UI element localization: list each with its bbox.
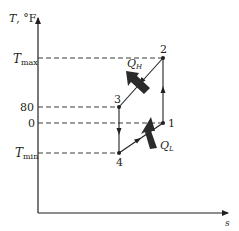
tick-0: 0: [28, 117, 35, 130]
tick-80: 80: [20, 101, 34, 114]
qh-label: QH: [127, 57, 143, 71]
state-label-3: 3: [114, 93, 121, 106]
t-s-diagram: T, °F s Tmax 80 0 Tmin QH QL: [0, 0, 239, 231]
state-label-2: 2: [160, 43, 167, 56]
tick-tmax: Tmax: [13, 52, 38, 67]
ql-heat-arrow: [141, 117, 157, 149]
state-label-1: 1: [168, 117, 175, 130]
state-point-1: [161, 121, 165, 125]
y-axis-unit: , °F: [16, 12, 36, 25]
x-axis-label: s: [225, 218, 230, 228]
ql-label: QL: [160, 139, 174, 153]
arrowhead-1-2: [161, 86, 166, 93]
tick-tmin: Tmin: [15, 146, 38, 161]
y-axis-label: T, °F: [9, 12, 37, 25]
state-label-4: 4: [116, 156, 123, 169]
qh-heat-arrow: [126, 71, 150, 94]
state-point-2: [161, 56, 165, 60]
state-point-4: [117, 151, 121, 155]
arrowhead-3-4: [117, 128, 122, 135]
